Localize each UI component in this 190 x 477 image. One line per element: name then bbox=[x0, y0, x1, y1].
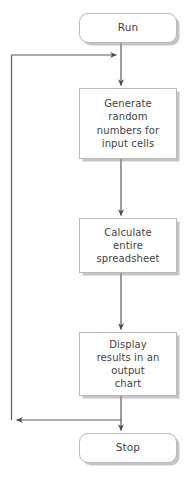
node-generate-label: Generate random numbers for input cells bbox=[97, 97, 159, 150]
node-run-label: Run bbox=[118, 21, 138, 35]
node-display-label: Display results in an output chart bbox=[97, 338, 160, 391]
node-calculate-label: Calculate entire spreadsheet bbox=[97, 226, 160, 266]
node-calculate-spreadsheet[interactable]: Calculate entire spreadsheet bbox=[79, 218, 177, 273]
flowchart-diagram: Run Generate random numbers for input ce… bbox=[0, 0, 190, 477]
node-stop[interactable]: Stop bbox=[79, 433, 177, 463]
node-display-results[interactable]: Display results in an output chart bbox=[79, 332, 177, 396]
node-run[interactable]: Run bbox=[79, 13, 177, 43]
node-stop-label: Stop bbox=[116, 441, 140, 455]
node-generate-random-numbers[interactable]: Generate random numbers for input cells bbox=[79, 88, 177, 159]
